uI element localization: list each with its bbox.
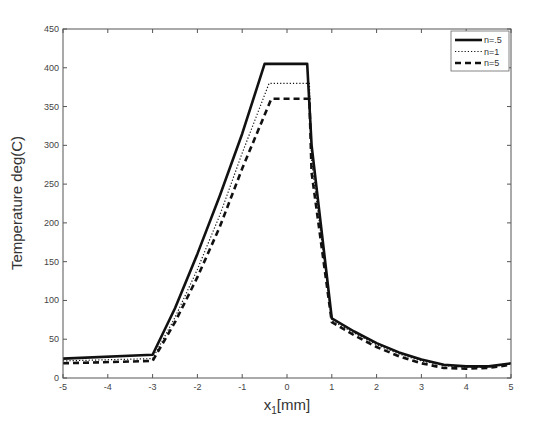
y-tick-label: 200	[44, 218, 59, 228]
line-chart: -5-4-3-2-1012345 05010015020025030035040…	[0, 0, 534, 430]
legend-label: n=5	[484, 58, 499, 68]
legend-label: n=.5	[484, 35, 502, 45]
y-tick-label: 450	[44, 24, 59, 34]
y-tick-label: 350	[44, 102, 59, 112]
legend-label: n=1	[484, 47, 499, 57]
y-tick-label: 150	[44, 257, 59, 267]
y-axis-label: Temperature deg(C)	[8, 136, 25, 270]
x-tick-label: -2	[193, 382, 201, 392]
x-tick-label: 4	[464, 382, 469, 392]
x-tick-label: 1	[329, 382, 334, 392]
legend: n=.5n=1n=5	[451, 31, 509, 71]
x-tick-label: 5	[508, 382, 513, 392]
x-tick-label: -3	[149, 382, 157, 392]
y-tick-label: 400	[44, 63, 59, 73]
x-tick-label: 0	[284, 382, 289, 392]
x-tick-label: 2	[374, 382, 379, 392]
x-tick-label: -5	[59, 382, 67, 392]
y-tick-label: 100	[44, 295, 59, 305]
x-tick-label: -4	[104, 382, 112, 392]
y-tick-label: 0	[54, 373, 59, 383]
x-tick-label: 3	[419, 382, 424, 392]
y-tick-label: 300	[44, 140, 59, 150]
y-tick-label: 50	[49, 334, 59, 344]
x-tick-label: -1	[238, 382, 246, 392]
y-tick-label: 250	[44, 179, 59, 189]
